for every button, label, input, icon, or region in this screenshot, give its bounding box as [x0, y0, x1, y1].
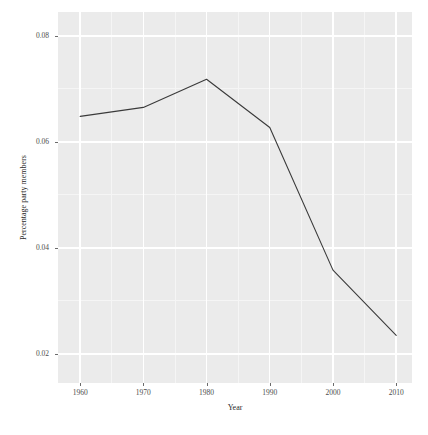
line-chart: 0.020.040.060.08 19601970198019902000201… [0, 0, 428, 435]
x-tick-label: 1970 [136, 389, 151, 397]
x-tick-mark [143, 383, 144, 386]
x-tick-mark [207, 383, 208, 386]
x-tick-mark [80, 383, 81, 386]
y-axis-title: Percentage party members [19, 12, 33, 383]
x-tick-mark [396, 383, 397, 386]
plot-panel [58, 12, 412, 383]
series-line-layer [58, 12, 412, 383]
x-tick-mark [270, 383, 271, 386]
y-tick-mark [55, 354, 58, 355]
y-tick-mark [55, 248, 58, 249]
x-tick-label: 1980 [199, 389, 214, 397]
y-tick-mark [55, 36, 58, 37]
x-tick-label: 2000 [325, 389, 340, 397]
x-axis-title: Year [58, 403, 412, 412]
series-line-party-members [80, 79, 396, 335]
x-tick-label: 1990 [262, 389, 277, 397]
x-tick-mark [333, 383, 334, 386]
x-tick-label: 1960 [73, 389, 88, 397]
x-tick-label: 2010 [389, 389, 404, 397]
y-tick-mark [55, 142, 58, 143]
